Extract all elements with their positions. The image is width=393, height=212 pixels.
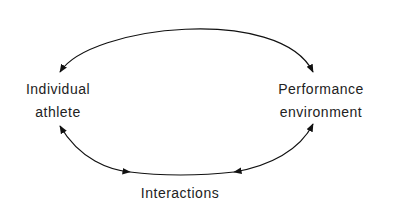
node-performance-environment: Performance environment	[265, 78, 377, 124]
node-label-line1: Performance	[265, 78, 377, 101]
bottom-right-arc-arrow	[234, 124, 313, 172]
node-label-line2: athlete	[10, 101, 106, 124]
top-arc-arrow	[60, 29, 313, 72]
node-interactions: Interactions	[125, 182, 235, 205]
node-label-line1: Individual	[10, 78, 106, 101]
bottom-left-arc-arrow	[60, 126, 130, 172]
node-individual-athlete: Individual athlete	[10, 78, 106, 124]
bottom-middle-arc	[130, 172, 234, 175]
node-label-line2: environment	[265, 101, 377, 124]
cycle-diagram: Individual athlete Performance environme…	[0, 0, 393, 212]
